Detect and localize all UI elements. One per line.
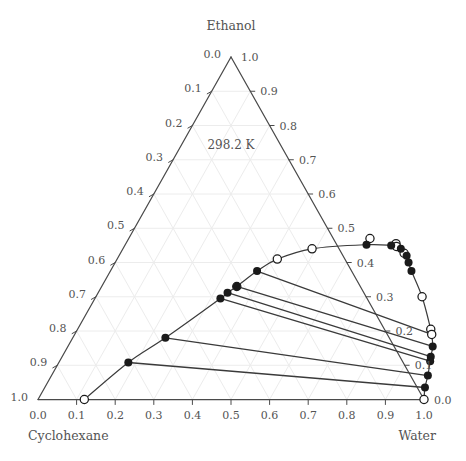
data-point-filled-6: [253, 267, 261, 275]
grid-line-water-0.3: [154, 160, 289, 400]
tick-label-cyclohexane-0.4: 0.4: [126, 185, 144, 198]
tick-label-ethanol-0.0: 0.0: [434, 394, 452, 407]
tick-label-water-0.4: 0.4: [184, 409, 202, 422]
tick-label-cyclohexane-0.0: 0.0: [204, 48, 222, 61]
tick-label-water-0.5: 0.5: [222, 409, 240, 422]
tick-label-water-0.7: 0.7: [299, 409, 317, 422]
data-point-open-12: [420, 395, 428, 403]
tick-label-cyclohexane-0.1: 0.1: [184, 82, 202, 95]
tick-label-ethanol-0.5: 0.5: [338, 222, 356, 235]
grid-line-cyclohexane-0.1: [57, 365, 76, 399]
data-point-filled-5: [233, 282, 241, 290]
tick-label-water-1.0: 1.0: [415, 409, 433, 422]
data-point-filled-2: [161, 334, 169, 342]
tick-label-ethanol-0.2: 0.2: [395, 325, 413, 338]
tick-label-ethanol-0.7: 0.7: [299, 154, 317, 167]
tick-label-water-0.2: 0.2: [106, 409, 124, 422]
tick-label-ethanol-0.3: 0.3: [376, 291, 394, 304]
tick-label-water-0.6: 0.6: [261, 409, 279, 422]
data-point-filled-17: [421, 384, 429, 392]
data-point-open-1: [80, 395, 88, 403]
data-points: [80, 234, 436, 403]
data-point-filled-3: [216, 294, 224, 302]
tick-label-water-0.1: 0.1: [68, 409, 86, 422]
tick-label-cyclohexane-0.6: 0.6: [88, 254, 106, 267]
data-point-filled-9: [397, 245, 405, 253]
grid-line-water-0.5: [231, 228, 328, 399]
tick-label-cyclohexane-0.7: 0.7: [68, 288, 86, 301]
tick-label-cyclohexane-0.2: 0.2: [165, 117, 183, 130]
data-point-filled-16: [424, 372, 432, 380]
data-point-filled-1: [124, 359, 132, 367]
tick-label-ethanol-0.8: 0.8: [280, 120, 298, 133]
ternary-phase-diagram: 0.00.00.00.10.10.10.20.20.20.30.30.30.40…: [0, 0, 466, 461]
tick-label-ethanol-0.4: 0.4: [357, 257, 375, 270]
data-point-open-4: [308, 245, 316, 253]
tick-label-ethanol-0.1: 0.1: [415, 359, 433, 372]
data-point-open-11: [428, 330, 436, 338]
tick-label-cyclohexane-1.0: 1.0: [11, 391, 29, 404]
data-point-open-3: [273, 255, 281, 263]
data-point-filled-13: [429, 342, 437, 350]
data-point-filled-7: [362, 241, 370, 249]
tick-label-cyclohexane-0.9: 0.9: [30, 356, 48, 369]
tick-label-water-0.0: 0.0: [29, 409, 47, 422]
temperature-annotation: 298.2 K: [207, 138, 255, 152]
grid-line-cyclohexane-0.7: [173, 160, 308, 400]
tie-line-1: [128, 363, 425, 388]
tick-label-ethanol-0.6: 0.6: [318, 188, 336, 201]
grid-line-cyclohexane-0.5: [135, 228, 232, 399]
grid-line-water-0.7: [308, 297, 366, 400]
data-point-filled-8: [387, 241, 395, 249]
ternary-chart-svg: 0.00.00.00.10.10.10.20.20.20.30.30.30.40…: [0, 0, 466, 461]
data-point-filled-4: [224, 289, 232, 297]
tick-label-water-0.3: 0.3: [145, 409, 163, 422]
tick-label-water-0.9: 0.9: [377, 409, 395, 422]
tie-lines: [128, 271, 432, 387]
tick-label-ethanol-0.9: 0.9: [260, 85, 278, 98]
axis-labels: 0.00.00.00.10.10.10.20.20.20.30.30.30.40…: [11, 18, 452, 443]
corner-label-cyclohexane: Cyclohexane: [28, 428, 109, 443]
corner-label-ethanol: Ethanol: [206, 18, 255, 33]
data-point-filled-10: [403, 252, 411, 260]
tick-label-water-0.8: 0.8: [338, 409, 356, 422]
grid-line-cyclohexane-0.3: [96, 297, 154, 400]
corner-label-water: Water: [398, 428, 436, 443]
tick-label-cyclohexane-0.3: 0.3: [146, 151, 164, 164]
tick-label-cyclohexane-0.5: 0.5: [107, 219, 125, 232]
data-point-open-9: [418, 293, 426, 301]
data-point-filled-12: [407, 267, 415, 275]
tick-label-ethanol-1.0: 1.0: [241, 51, 259, 64]
data-point-filled-11: [405, 259, 413, 267]
tick-label-cyclohexane-0.8: 0.8: [49, 322, 67, 335]
